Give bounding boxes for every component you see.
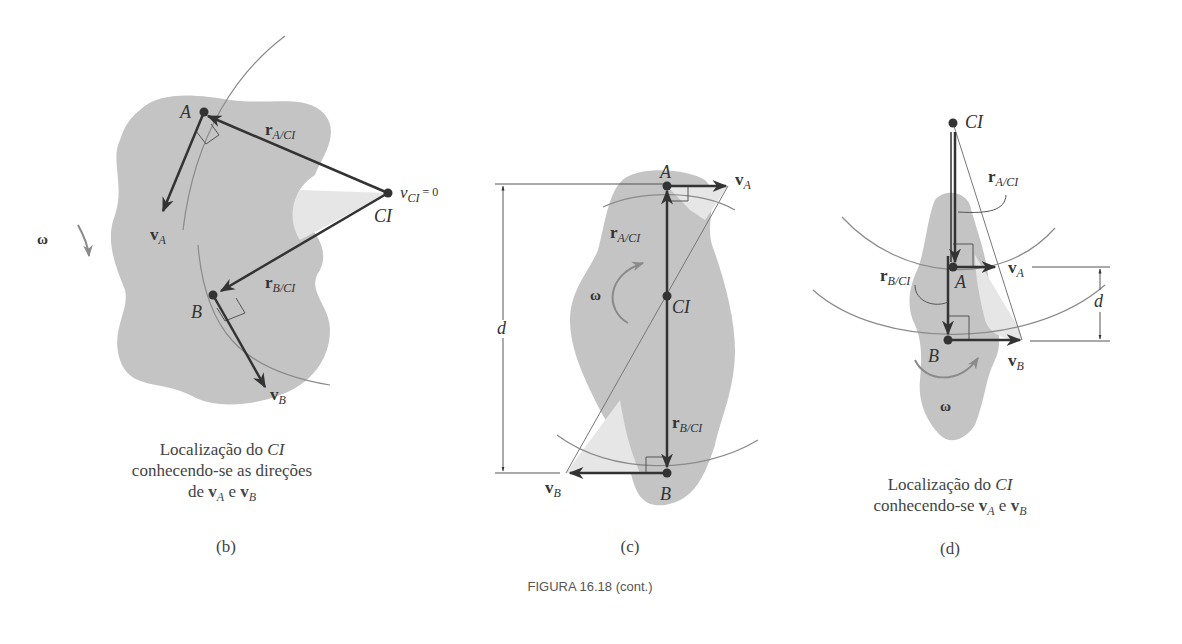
point-a-b [200,108,209,117]
omega-label-c: ω [590,287,601,303]
figure-canvas: ω A B CI vCI = 0 rA/CI rB/CI vA vB Local… [0,0,1182,644]
panel-b: ω A B CI vCI = 0 rA/CI rB/CI vA vB Local… [37,36,438,556]
label-v-b-c: vB [545,478,562,500]
caption-b-line1: Localização do CI [160,440,286,459]
caption-b-line2: conhecendo-se as direções [132,461,312,480]
label-ci-b: CI [374,206,393,226]
label-d-d: d [1094,291,1104,311]
caption-d-line2: conhecendo-se vA e vB [874,496,1028,518]
label-a-c: A [659,162,672,182]
label-b-b: B [191,302,202,322]
omega-label-b: ω [37,231,48,247]
panel-c: d ω A CI B rA/CI rB/CI vA vB (c) [495,162,758,556]
label-v-a-c: vA [735,170,752,192]
omega-label-d: ω [940,398,951,414]
label-ci-c: CI [672,297,691,317]
label-r-a-ci-d: rA/CI [988,167,1019,189]
point-b-c [663,469,672,478]
rigid-body-b [111,96,331,405]
label-r-b-ci-d: rB/CI [880,266,911,288]
panel-d: d ω CI A B rA/CI rB/CI vA vB Localização… [813,112,1110,558]
omega-arrow-b [78,225,89,256]
figure-caption: FIGURA 16.18 (cont.) [528,579,653,594]
label-d-c: d [497,318,507,338]
label-v-b-d: vB [1008,351,1025,373]
point-b-b [209,291,218,300]
point-ci-d [949,119,958,128]
label-ci-d: CI [965,112,984,132]
label-vci-b: vCI = 0 [400,183,438,205]
point-a-c [663,182,672,191]
point-ci-b [384,189,393,198]
label-a-d: A [954,272,967,292]
point-ci-c [663,292,672,301]
label-b-d: B [928,346,939,366]
caption-d-line1: Localização do CI [888,475,1014,494]
point-a-d [949,263,958,272]
point-b-d [944,336,953,345]
label-b-c: B [660,484,671,504]
label-a-b: A [179,102,192,122]
panel-tag-b: (b) [216,537,236,556]
caption-b-line3: de vA e vB [188,482,257,504]
panel-tag-c: (c) [621,537,640,556]
label-v-a-d: vA [1008,258,1025,280]
panel-tag-d: (d) [940,539,960,558]
